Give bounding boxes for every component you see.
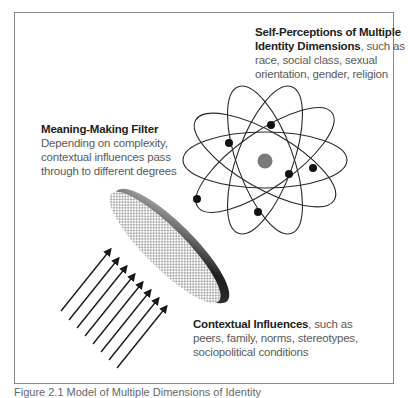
electrons [193,121,317,216]
contextual-arrows-icon [61,250,166,368]
meaning-making-filter-label: Meaning-Making Filter Depending on compl… [41,122,201,178]
identity-dimensions-label: Self-Perceptions of Multiple Identity Di… [255,25,408,81]
nucleus [258,154,273,169]
contextual-influences-title: Contextual Influences [193,318,308,330]
filter-disc-icon [97,174,243,320]
atom-icon [182,77,349,243]
contextual-influences-label: Contextual Influences, such as peers, fa… [193,317,383,359]
meaning-making-filter-title: Meaning-Making Filter [41,122,201,136]
figure-caption: Figure 2.1 Model of Multiple Dimensions … [14,386,261,398]
meaning-making-filter-body: Depending on complexity, contextual infl… [41,137,176,177]
